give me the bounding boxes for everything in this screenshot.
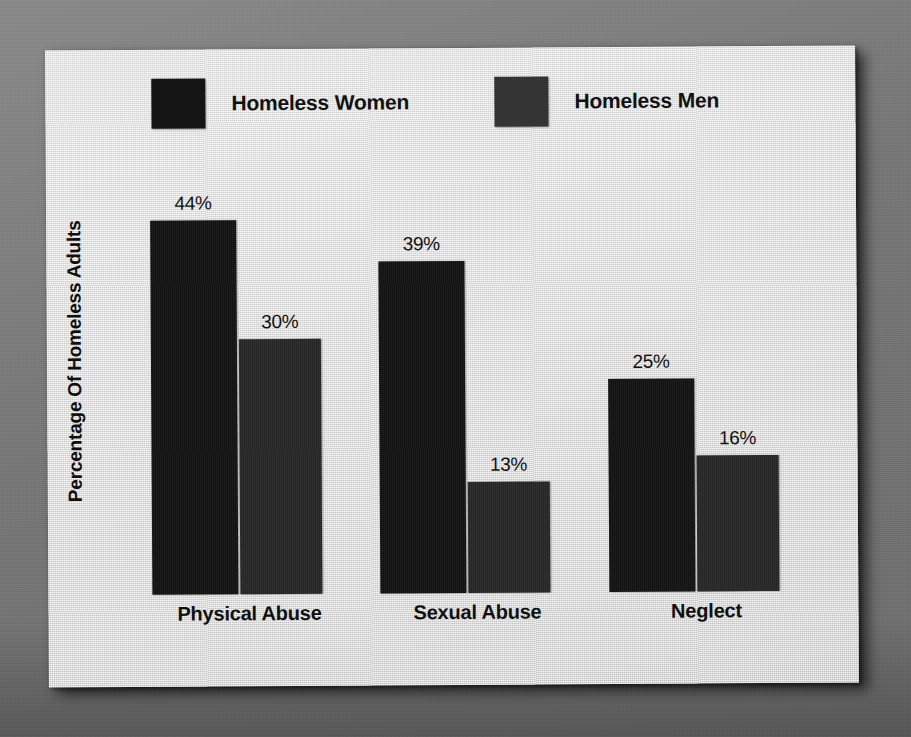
bar-group-sexual-abuse: 39% 13%: [378, 167, 575, 593]
legend-swatch-homeless-men: [494, 76, 548, 126]
bar-value-physical-abuse-women: 44%: [150, 192, 236, 215]
y-axis-title: Percentage Of Homeless Adults: [63, 181, 87, 541]
category-label-neglect: Neglect: [609, 599, 803, 623]
legend-item-homeless-men[interactable]: Homeless Men: [494, 74, 719, 127]
bar-wrap-physical-abuse-women: 44%: [152, 594, 238, 595]
bar-wrap-neglect-men: 16%: [697, 591, 779, 592]
category-label-sexual-abuse: Sexual Abuse: [380, 600, 574, 624]
chart-legend: Homeless Women Homeless Men: [45, 46, 856, 161]
bar-physical-abuse-men[interactable]: [239, 339, 323, 594]
category-label-physical-abuse: Physical Abuse: [152, 602, 346, 626]
bar-sexual-abuse-women[interactable]: [378, 261, 466, 594]
bar-value-neglect-women: 25%: [608, 351, 694, 374]
legend-label-homeless-men: Homeless Men: [574, 88, 719, 113]
bar-group-neglect: 25% 16%: [607, 166, 804, 592]
bar-wrap-sexual-abuse-men: 13%: [468, 592, 550, 593]
bar-value-physical-abuse-men: 30%: [239, 311, 321, 334]
legend-swatch-homeless-women: [151, 79, 205, 129]
bar-wrap-physical-abuse-men: 30%: [240, 594, 322, 595]
category-axis: Physical Abuse Sexual Abuse Neglect: [106, 599, 848, 644]
plot-area: 44% 30% 39% 13% 25% 16%: [104, 166, 849, 596]
bar-value-sexual-abuse-men: 13%: [468, 453, 550, 476]
chart-panel: Homeless Women Homeless Men Percentage O…: [45, 46, 859, 688]
bar-wrap-neglect-women: 25%: [609, 592, 695, 593]
bar-wrap-sexual-abuse-women: 39%: [380, 593, 466, 594]
bar-sexual-abuse-men[interactable]: [468, 481, 551, 592]
bar-neglect-women[interactable]: [608, 379, 695, 593]
legend-label-homeless-women: Homeless Women: [231, 90, 409, 115]
bar-neglect-men[interactable]: [697, 455, 780, 591]
bar-value-sexual-abuse-women: 39%: [378, 233, 464, 256]
bar-value-neglect-men: 16%: [696, 427, 778, 450]
bar-physical-abuse-women[interactable]: [150, 220, 238, 595]
bar-group-physical-abuse: 44% 30%: [150, 169, 347, 595]
legend-item-homeless-women[interactable]: Homeless Women: [151, 76, 409, 130]
